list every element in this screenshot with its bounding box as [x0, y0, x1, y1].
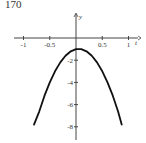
x-tick-label: -1	[21, 41, 27, 49]
y-tick-label: -4	[67, 79, 73, 87]
y-tick-label: -2	[67, 57, 73, 65]
x-axis-label: t	[135, 39, 138, 47]
x-tick-label: 1	[127, 41, 131, 49]
y-tick-label: -8	[67, 123, 73, 131]
x-tick-label: 0.5	[98, 41, 107, 49]
x-tick-label: -0.5	[44, 41, 56, 49]
y-tick-label: -6	[67, 101, 73, 109]
x-axis-arrow-icon	[138, 36, 141, 40]
plot-area: ty-1-0.50.51-2-4-6-8	[0, 0, 146, 143]
y-axis-label: y	[78, 13, 83, 21]
